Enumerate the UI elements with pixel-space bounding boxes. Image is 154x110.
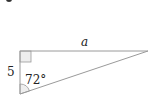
- side-label-a: a: [81, 36, 88, 48]
- angle-label: 72°: [25, 74, 46, 86]
- right-angle-marker: [20, 51, 31, 62]
- side-label-5: 5: [7, 66, 15, 78]
- triangle-diagram: [0, 0, 154, 110]
